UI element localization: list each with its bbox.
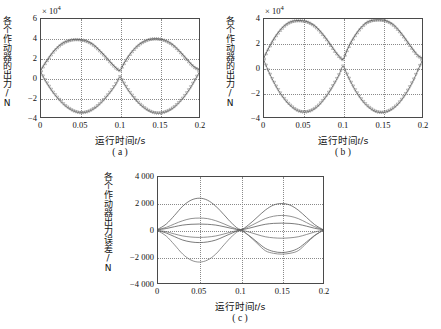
panel-a-caption: ( a ) — [60, 147, 180, 157]
panel-a-xtick-2: 0.1 — [115, 120, 126, 130]
panel-a-ytick-2: 2 — [20, 53, 37, 63]
panel-b-xtick-2: 0.1 — [338, 120, 349, 130]
panel-b-ytick-0: 4 — [243, 13, 260, 23]
curve-c-5 — [158, 230, 323, 252]
panel-b-ytick-1: 2 — [243, 38, 260, 48]
panel-b-ytick-2: 0 — [243, 63, 260, 73]
panel-b-xlabel-unit: /s — [360, 135, 368, 146]
panel-c-ytick-1: 2 000 — [114, 198, 154, 208]
panel-b-ytick-4: −4 — [239, 113, 260, 123]
panel-a-ytick-3: 0 — [20, 73, 37, 83]
panel-b-xtick-1: 0.05 — [296, 120, 311, 130]
panel-a-xlabel: 运行时间t/s — [60, 133, 180, 147]
panel-c-ytick-0: 4 000 — [114, 171, 154, 181]
panel-a-ytick-1: 4 — [20, 33, 37, 43]
panel-c-ytick-3: −2 000 — [110, 252, 154, 262]
panel-a-xtick-1: 0.05 — [73, 120, 88, 130]
panel-a-ytick-0: 6 — [20, 13, 37, 23]
panel-b-xtick-3: 0.15 — [376, 120, 391, 130]
panel-b-exponent: × 104 — [265, 4, 284, 16]
panel-c-caption: ( c ) — [180, 313, 300, 323]
panel-c-xlabel-unit: /s — [257, 301, 265, 312]
panel-a-ylabel: 各个作动器的出力/N — [2, 16, 11, 124]
panel-b-ylabel: 各个作动器的出力/N — [225, 16, 234, 124]
panel-b-xtick-0: 0 — [261, 120, 265, 130]
panel-a-exponent-power: 4 — [57, 4, 60, 11]
panel-a-plot-area — [40, 18, 200, 118]
panel-a-xtick-4: 0.2 — [195, 120, 206, 130]
panel-a-exponent-prefix: × 10 — [42, 6, 57, 16]
panel-b-xtick-4: 0.2 — [418, 120, 429, 130]
markers-a-2 — [41, 71, 199, 115]
curve-c-6 — [158, 230, 323, 262]
markers-b-1 — [264, 19, 422, 61]
panel-b-ytick-3: −2 — [239, 88, 260, 98]
panel-c-xtick-2: 0.1 — [235, 286, 246, 296]
panel-b-plot-area — [263, 18, 423, 118]
figure-root: 各个作动器的出力/N × 104 6 4 2 0 −2 −4 0 0.05 0.… — [0, 0, 441, 329]
panel-c-xtick-4: 0.2 — [319, 286, 330, 296]
panel-a-xtick-0: 0 — [38, 120, 42, 130]
panel-b-exponent-prefix: × 10 — [265, 6, 280, 16]
panel-c-xtick-3: 0.15 — [275, 286, 290, 296]
panel-c-xlabel: 运行时间t/s — [180, 299, 300, 313]
panel-c-xlabel-cn: 运行时间 — [215, 301, 255, 312]
panel-a-xlabel-cn: 运行时间 — [95, 135, 135, 146]
panel-c-ylabel: 各个作动器出力误差/N — [103, 172, 112, 290]
curve-c-4 — [158, 230, 323, 238]
curve-a-1 — [41, 39, 199, 71]
curve-c-3 — [158, 223, 323, 230]
panel-c-xtick-0: 0 — [155, 286, 159, 296]
panel-c-ytick-2: 0 — [114, 225, 154, 235]
panel-c-plot-area — [157, 176, 324, 284]
panel-b-exponent-power: 4 — [280, 4, 283, 11]
panel-a-xlabel-unit: /s — [137, 135, 145, 146]
curve-c-2 — [158, 215, 323, 229]
panel-a-ytick-5: −4 — [16, 113, 37, 123]
panel-a-xtick-3: 0.15 — [153, 120, 168, 130]
panel-a-ytick-4: −2 — [16, 93, 37, 103]
panel-c-xtick-1: 0.05 — [191, 286, 206, 296]
panel-b-curves — [264, 19, 422, 117]
panel-b-caption: ( b ) — [283, 147, 403, 157]
panel-a-curves — [41, 19, 199, 117]
markers-b-2 — [264, 59, 422, 114]
panel-b-xlabel: 运行时间t/s — [283, 133, 403, 147]
panel-c-curves — [158, 177, 323, 283]
panel-c-ytick-4: −4 000 — [110, 279, 154, 289]
panel-a-exponent: × 104 — [42, 4, 61, 16]
panel-b-xlabel-cn: 运行时间 — [318, 135, 358, 146]
